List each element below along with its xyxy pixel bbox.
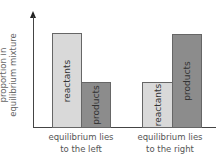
bar-left-products: products: [81, 82, 111, 128]
bar-right-reactants: reactants: [142, 82, 173, 128]
category-label-right: equilibrium lies to the right: [130, 131, 210, 155]
bar-right-products: products: [172, 34, 202, 128]
bar-left-reactants: reactants: [52, 33, 82, 128]
category-label-left: equilibrium lies to the left: [41, 131, 121, 155]
y-axis-label: proportion in equilibrium mixture: [0, 20, 28, 130]
y-axis: [33, 16, 34, 128]
